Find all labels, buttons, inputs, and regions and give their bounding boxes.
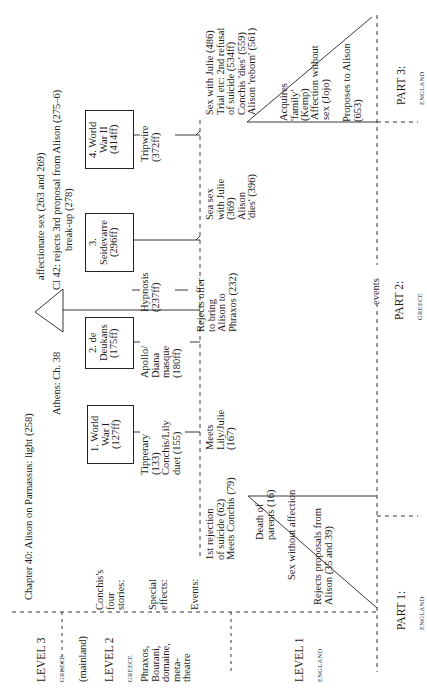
events-axis-label: events — [371, 265, 383, 305]
row-label-events: Events: — [190, 540, 204, 610]
athens-text: Athens: Ch. 38 — [52, 325, 64, 415]
affectionate-text: affectionate sex (263 and 269) — [36, 100, 48, 280]
level2-label: LEVEL 2 GREECE — [93, 612, 119, 682]
effect-hypnosis: Hypnosis (237ff) — [140, 262, 170, 312]
level3-label: LEVEL 3 GREECE (mainland) — [25, 612, 61, 682]
row-label-effects: Special effects: — [148, 540, 174, 610]
part3-label: PART 3: ENGLAND — [385, 45, 409, 105]
part1-label: PART 1: ENGLAND — [385, 570, 409, 630]
story-box-3: 3. Seidevarre (296ff) — [85, 213, 134, 272]
part1-event-death-of-parents: Death of parents (16) — [255, 480, 281, 540]
event-meets-lily: Meets Lily/Julie (167) — [205, 390, 239, 450]
effect-tipperary: Tipperary (133) Conchis/Lily duet (155) — [140, 405, 186, 475]
part1-event-sex-without-affection: Sex without affection — [287, 470, 301, 580]
row-label-stories: Conchis's four stories: — [95, 540, 133, 610]
level1-label: LEVEL 1 ENGLAND — [283, 612, 309, 682]
part2-label: PART 2: GREECE — [383, 260, 407, 320]
story-box-1: 1. World War I (127ff) — [87, 405, 134, 464]
event-sea-sex: Sea sex with Julie (369) Alison 'dies' (… — [205, 150, 261, 220]
chapter42-text: Cl 42: rejects 3rd proposal from Alison … — [52, 60, 64, 290]
part3-event-acquires-family: Acquires 'family' (Kemp) — [279, 55, 305, 121]
story-box-2: 2. de Deukans (175ff) — [85, 317, 134, 369]
event-sex-with-julie: Sex with Julie (486) Trial etc: 2nd refu… — [205, 5, 261, 115]
event-rejects-offer: Rejects offer to bring Alison to Phraxos… — [196, 262, 242, 332]
story-box-4: 4. World War II (414ff) — [85, 110, 134, 169]
breakup-text: break-up (278) — [64, 180, 76, 260]
part3-event-affection-without-sex: Affection without sex (Jojo) — [310, 30, 336, 120]
event-1st-rejection: 1st rejection of suicide (62) Meets Conc… — [205, 460, 245, 560]
effect-apollo-diana: Apollo/ Diana masque (180ff) — [140, 318, 186, 378]
level2-places: Phraxos, Bourani, domaine, meta- theatre — [140, 612, 196, 682]
part3-event-proposes: Proposes to Alison (653) — [342, 22, 368, 122]
effect-tripwire: Tripwire (372ff) — [140, 112, 170, 162]
part1-event-rejects-proposals: Rejects proposals from Alison (35 and 39… — [313, 490, 341, 605]
